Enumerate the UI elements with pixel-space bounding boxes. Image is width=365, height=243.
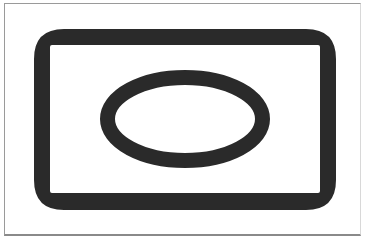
ellipse-ring	[108, 78, 263, 161]
rounded-rectangle-ring	[34, 29, 336, 210]
diagram-canvas	[0, 0, 365, 243]
